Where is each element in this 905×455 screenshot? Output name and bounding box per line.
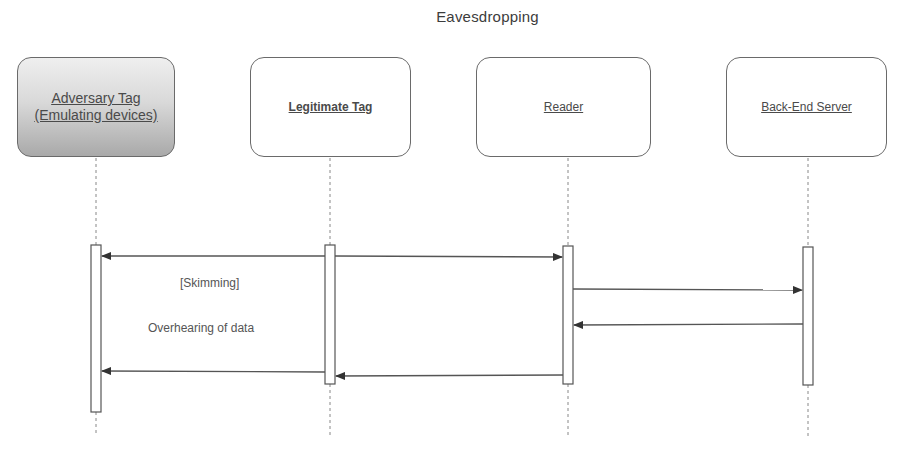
activation-legitimate — [325, 245, 335, 384]
sequence-canvas — [0, 0, 905, 455]
message-reader-to-server — [573, 289, 802, 290]
annotation-overhearing: Overhearing of data — [148, 321, 254, 335]
message-legitimate-to-reader — [335, 256, 562, 257]
message-reader-to-legitimate — [336, 375, 563, 376]
clipped-caption — [0, 447, 905, 455]
activation-adversary — [91, 245, 101, 412]
message-server-to-reader — [574, 324, 803, 325]
message-legitimate-to-adversary-2 — [102, 371, 325, 372]
annotation-skimming: [Skimming] — [180, 276, 239, 290]
activation-reader — [563, 246, 573, 384]
activation-server — [803, 247, 813, 385]
